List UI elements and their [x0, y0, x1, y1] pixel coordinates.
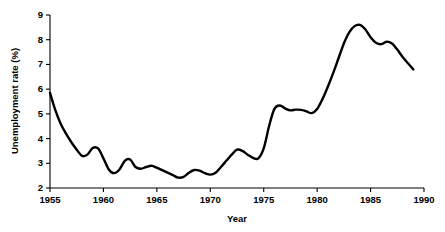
x-axis-title: Year: [227, 213, 247, 224]
unemployment-rate-chart: 23456789 1955196019651970197519801985199…: [0, 0, 445, 232]
x-tick-label: 1975: [253, 194, 275, 205]
y-tick-label: 7: [38, 58, 43, 69]
y-axis-title: Unemployment rate (%): [9, 48, 20, 154]
x-axis-group: 19551960196519701975198019851990: [39, 188, 434, 205]
chart-plot-area: 23456789 1955196019651970197519801985199…: [0, 0, 445, 232]
x-tick-label: 1955: [39, 194, 61, 205]
y-tick-label: 4: [38, 133, 44, 144]
x-tick-label: 1980: [307, 194, 328, 205]
x-tick-label: 1985: [360, 194, 382, 205]
x-tick-label: 1960: [93, 194, 114, 205]
y-tick-label: 3: [38, 157, 43, 168]
y-tick-label: 6: [38, 83, 43, 94]
x-tick-label: 1990: [413, 194, 434, 205]
y-tick-label: 2: [38, 182, 43, 193]
y-tick-label: 5: [38, 108, 44, 119]
y-tick-label: 8: [38, 34, 43, 45]
y-axis-group: 23456789: [38, 9, 50, 193]
unemployment-rate-line: [50, 25, 413, 178]
y-tick-label-group: 23456789: [38, 9, 44, 193]
x-tick-label: 1970: [200, 194, 221, 205]
y-tick-group: [46, 15, 50, 188]
x-tick-label: 1965: [146, 194, 168, 205]
x-tick-group: [50, 188, 424, 192]
y-tick-label: 9: [38, 9, 43, 20]
x-tick-label-group: 19551960196519701975198019851990: [39, 194, 434, 205]
